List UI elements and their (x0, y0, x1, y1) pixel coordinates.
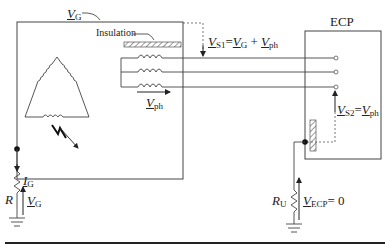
label-vph: Vph (146, 96, 163, 111)
label-ecp: ECP (330, 15, 354, 28)
label-r: R (5, 193, 13, 206)
ground-icon (9, 218, 25, 226)
delta-winding-icon (25, 57, 89, 117)
vg-leader (82, 13, 100, 20)
label-insulation: Insulation (96, 28, 136, 38)
ru-resistor-icon (291, 190, 297, 224)
ecp-insulation-bar (310, 120, 316, 151)
label-vg-bottom: VG (27, 194, 41, 209)
ecp-enclosure (305, 31, 381, 159)
fault-bolt-icon (52, 125, 66, 138)
terminal-icon (334, 56, 338, 89)
label-vecp: VECP= 0 (303, 194, 345, 209)
label-ig: IG (23, 174, 34, 189)
three-phase-coils (121, 55, 168, 87)
label-vg: VG (67, 7, 81, 22)
label-vs2: VS2=Vph (337, 103, 379, 118)
insulation-leader (133, 34, 154, 40)
vs2-dashed-line (305, 112, 335, 142)
label-vs1: VS1=VG + Vph (208, 35, 278, 50)
insulation-bar (124, 42, 181, 47)
label-ru: RU (272, 194, 286, 209)
ground-icon (286, 224, 302, 232)
vs1-dashed-line (183, 23, 203, 52)
three-conductors (168, 58, 334, 87)
fault-arrow-icon (60, 128, 78, 148)
